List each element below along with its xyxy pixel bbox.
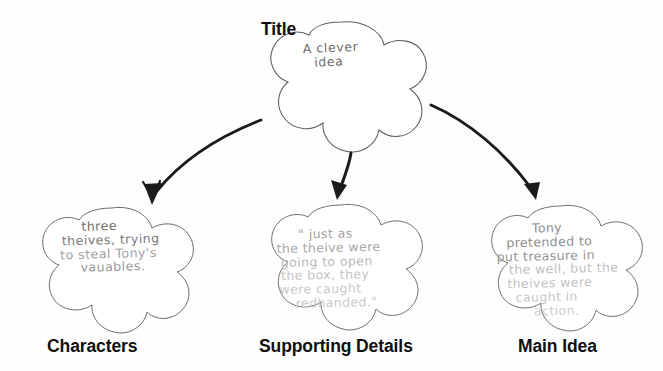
arrow-title-to-main-idea bbox=[431, 105, 540, 200]
node-label-title: Title bbox=[261, 19, 296, 40]
handwriting-supporting-details: " just asthe theive weregoing to openthe… bbox=[276, 227, 382, 311]
node-label-main-idea: Main Idea bbox=[518, 336, 597, 357]
node-label-characters: Characters bbox=[47, 336, 137, 357]
arrow-title-to-characters bbox=[143, 120, 261, 205]
node-label-supporting-details: Supporting Details bbox=[259, 336, 413, 357]
handwriting-title: A cleveridea bbox=[302, 41, 359, 70]
handwriting-main-idea: Tonypretended toput treasure inthe well,… bbox=[496, 221, 620, 319]
arrow-title-to-supporting-details bbox=[331, 153, 351, 200]
handwriting-characters: threetheives, tryingto steal Tony'svauab… bbox=[59, 219, 160, 276]
